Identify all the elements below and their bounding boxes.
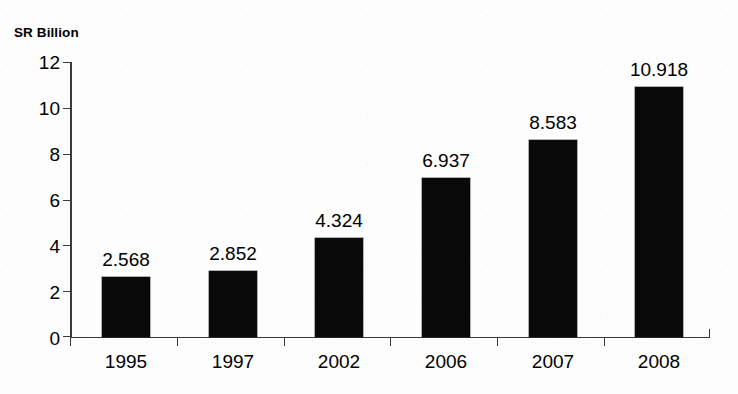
bar-1997[interactable]	[209, 271, 257, 337]
y-tick-label-8: 8	[14, 145, 60, 164]
x-category-label-2008: 2008	[619, 352, 699, 371]
x-category-label-1995: 1995	[86, 352, 166, 371]
bar-value-1995: 2.568	[86, 250, 166, 269]
bar-value-2002: 4.324	[299, 211, 379, 230]
y-tick-12	[63, 62, 70, 63]
x-tick-1	[177, 338, 178, 346]
y-tick-10	[63, 108, 70, 109]
x-category-label-2007: 2007	[513, 352, 593, 371]
x-tick-5	[604, 338, 605, 346]
bar-value-2008: 10.918	[619, 60, 699, 79]
x-tick-2	[284, 338, 285, 346]
y-tick-label-10: 10	[14, 99, 60, 118]
x-axis-end-tick	[709, 329, 710, 337]
y-tick-label-0: 0	[14, 329, 60, 348]
bar-2002[interactable]	[315, 238, 363, 337]
y-tick-label-6: 6	[14, 191, 60, 210]
bar-1995[interactable]	[102, 277, 150, 337]
y-tick-label-2: 2	[14, 283, 60, 302]
bar-2007[interactable]	[529, 140, 577, 337]
bar-chart: SR Billion 12 10 8 6 4 2 0 2.568 2.852 4…	[0, 0, 738, 394]
y-tick-6	[63, 200, 70, 201]
bar-value-1997: 2.852	[193, 244, 273, 263]
x-category-label-2002: 2002	[299, 352, 379, 371]
y-tick-0	[63, 336, 70, 337]
y-tick-label-4: 4	[14, 237, 60, 256]
bar-2006[interactable]	[422, 178, 470, 337]
x-tick-3	[390, 338, 391, 346]
bar-2008[interactable]	[635, 87, 683, 337]
bar-value-2006: 6.937	[406, 151, 486, 170]
bar-value-2007: 8.583	[513, 113, 593, 132]
x-category-label-2006: 2006	[406, 352, 486, 371]
y-tick-4	[63, 245, 70, 246]
y-tick-8	[63, 154, 70, 155]
y-tick-label-12: 12	[14, 53, 60, 72]
y-axis-line	[70, 62, 72, 338]
x-tick-4	[497, 338, 498, 346]
y-tick-2	[63, 291, 70, 292]
y-axis-tick-labels: 12 10 8 6 4 2 0	[8, 0, 60, 394]
x-category-label-1997: 1997	[193, 352, 273, 371]
x-tick-0	[70, 338, 71, 346]
